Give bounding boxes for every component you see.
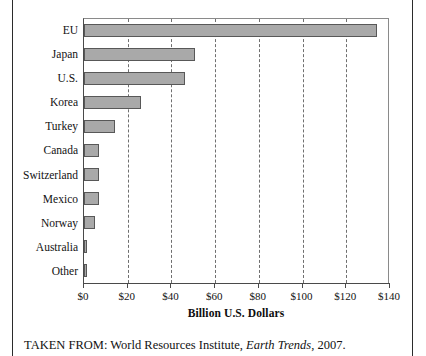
bar-eu [84,24,377,37]
bar-row: Turkey [0,114,426,138]
x-tick-80 [258,283,259,288]
x-axis-label-100: $100 [291,289,313,303]
bar-korea [84,96,141,109]
category-label-korea: Korea [0,96,78,108]
category-label-canada: Canada [0,144,78,156]
x-axis-line [83,283,390,284]
x-axis-tick-labels: $0$20$40$60$80$100$120$140 [0,289,426,305]
bar-row: Australia [0,235,426,259]
bar-u-s- [84,72,185,85]
category-label-switzerland: Switzerland [0,169,78,181]
bar-australia [84,240,87,253]
bar-chart: EUJapanU.S.KoreaTurkeyCanadaSwitzerlandM… [0,0,426,330]
bar-norway [84,216,95,229]
x-tick-0 [83,283,84,288]
bar-rows: EUJapanU.S.KoreaTurkeyCanadaSwitzerlandM… [0,18,426,283]
x-tick-120 [345,283,346,288]
bar-mexico [84,192,99,205]
bar-row: Canada [0,138,426,162]
x-axis-title: Billion U.S. Dollars [83,307,389,319]
x-axis-label-60: $60 [206,289,223,303]
caption-suffix: , 2007. [311,338,345,352]
x-axis-label-140: $140 [378,289,400,303]
category-label-other: Other [0,265,78,277]
caption-italic-title: Earth Trends [246,338,311,352]
bar-canada [84,144,99,157]
bar-other [84,264,87,277]
bar-row: Mexico [0,187,426,211]
x-tick-40 [170,283,171,288]
category-label-eu: EU [0,24,78,36]
bar-switzerland [84,168,99,181]
x-tick-140 [389,283,390,288]
caption-prefix: TAKEN FROM: World Resources Institute, [24,338,243,352]
bar-turkey [84,120,115,133]
bar-row: Switzerland [0,163,426,187]
source-caption: TAKEN FROM: World Resources Institute, E… [24,338,414,353]
category-label-japan: Japan [0,48,78,60]
x-axis-label-80: $80 [250,289,267,303]
category-label-turkey: Turkey [0,120,78,132]
category-label-mexico: Mexico [0,193,78,205]
bar-row: Norway [0,211,426,235]
bar-row: EU [0,18,426,42]
category-label-australia: Australia [0,241,78,253]
x-axis-label-120: $120 [334,289,356,303]
category-label-u-s-: U.S. [0,72,78,84]
x-tick-60 [214,283,215,288]
x-axis-label-20: $20 [118,289,135,303]
x-tick-100 [302,283,303,288]
bar-japan [84,48,195,61]
bar-row: U.S. [0,66,426,90]
bar-row: Korea [0,90,426,114]
x-axis-label-0: $0 [78,289,89,303]
bar-row: Other [0,259,426,283]
category-label-norway: Norway [0,217,78,229]
x-axis-label-40: $40 [162,289,179,303]
x-tick-20 [127,283,128,288]
bar-row: Japan [0,42,426,66]
